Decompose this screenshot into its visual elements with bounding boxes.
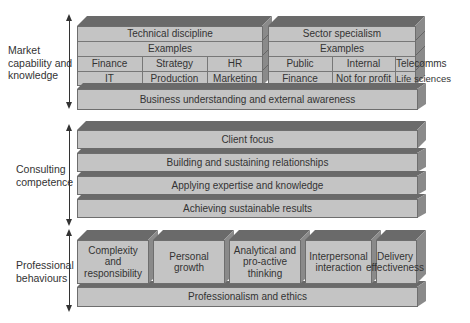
client-focus-text: Client focus bbox=[77, 130, 418, 149]
technical-examples-label: Examples bbox=[77, 41, 263, 56]
consulting-competence-text: Consulting competence bbox=[16, 163, 73, 188]
complexity-text: Complexity and responsibility bbox=[77, 240, 149, 284]
consulting-competence-label: Consulting competence bbox=[16, 163, 72, 188]
consulting-range-arrow-icon bbox=[69, 130, 70, 220]
technical-discipline-title: Technical discipline bbox=[77, 26, 263, 41]
sector-examples-label: Examples bbox=[268, 41, 416, 56]
results-text: Achieving sustainable results bbox=[77, 199, 418, 218]
sector-example-internal: Internal bbox=[332, 56, 395, 71]
personal-growth-text: Personal growth bbox=[153, 240, 225, 284]
technical-example-finance: Finance bbox=[77, 56, 142, 71]
sector-example-telecomms: Telecomms bbox=[395, 56, 416, 71]
business-understanding-text: Business understanding and external awar… bbox=[77, 89, 418, 110]
technical-example-strategy: Strategy bbox=[142, 56, 207, 71]
market-capability-text: Market capability and knowledge bbox=[8, 44, 72, 81]
sector-specialism-title: Sector specialism bbox=[268, 26, 416, 41]
relationships-text: Building and sustaining relationships bbox=[77, 153, 418, 172]
expertise-text: Applying expertise and knowledge bbox=[77, 176, 418, 195]
sector-example-public: Public bbox=[268, 56, 332, 71]
professionalism-text: Professionalism and ethics bbox=[77, 287, 418, 307]
professional-behaviours-label: Professional behaviours bbox=[16, 259, 72, 284]
interpersonal-text: Interpersonal interaction bbox=[305, 240, 372, 284]
analytical-text: Analytical and pro-active thinking bbox=[229, 240, 301, 284]
market-range-arrow-icon bbox=[69, 20, 70, 103]
professional-range-arrow-icon bbox=[69, 235, 70, 306]
professional-behaviours-text: Professional behaviours bbox=[16, 259, 74, 284]
technical-example-hr: HR bbox=[207, 56, 263, 71]
delivery-text: Delivery effectiveness bbox=[366, 240, 424, 284]
market-capability-label: Market capability and knowledge bbox=[8, 44, 74, 82]
